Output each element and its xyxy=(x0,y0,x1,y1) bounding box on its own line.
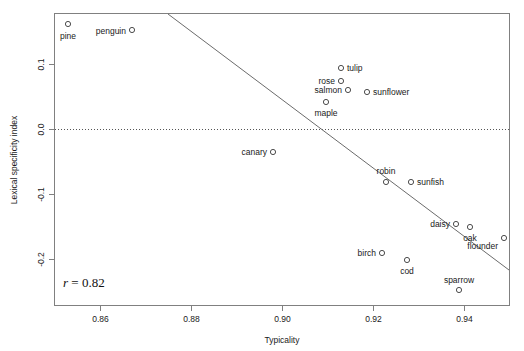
data-point-pine[interactable] xyxy=(65,21,70,26)
point-label-cod: cod xyxy=(400,266,414,276)
data-point-birch[interactable] xyxy=(379,250,384,255)
data-point-flounder[interactable] xyxy=(501,235,506,240)
x-tick-label-4: 0.94 xyxy=(456,314,473,324)
data-point-sparrow[interactable] xyxy=(456,287,461,292)
chart-canvas: 0.1 0.0 -0.1 -0.2 0.86 0.88 0.90 0.92 0.… xyxy=(0,0,524,351)
y-tick-label-1: 0.0 xyxy=(36,123,46,135)
svg-text:r = 0.82: r = 0.82 xyxy=(63,275,105,290)
point-label-sparrow: sparrow xyxy=(444,275,475,285)
data-point-penguin[interactable] xyxy=(129,27,134,32)
regression-fit-line xyxy=(168,14,509,270)
point-label-maple: maple xyxy=(314,108,337,118)
data-point-salmon[interactable] xyxy=(345,87,350,92)
point-label-canary: canary xyxy=(241,147,267,157)
data-point-daisy[interactable] xyxy=(453,221,458,226)
correlation-value: = 0.82 xyxy=(71,275,104,290)
x-tick-label-2: 0.90 xyxy=(274,314,291,324)
point-label-salmon: salmon xyxy=(315,85,343,95)
data-points-group xyxy=(65,21,506,292)
x-axis-ticks xyxy=(101,306,465,312)
point-label-sunfish: sunfish xyxy=(417,177,444,187)
point-label-pine: pine xyxy=(60,31,76,41)
point-label-robin: robin xyxy=(377,166,396,176)
point-label-daisy: daisy xyxy=(430,219,451,229)
point-labels-group: pine penguin tulip rose salmon sunflower… xyxy=(60,26,498,285)
point-label-tulip: tulip xyxy=(347,63,363,73)
scatter-plot-figure: 0.1 0.0 -0.1 -0.2 0.86 0.88 0.90 0.92 0.… xyxy=(0,0,524,351)
data-point-robin[interactable] xyxy=(383,179,388,184)
plot-frame xyxy=(55,14,510,306)
y-tick-label-3: -0.2 xyxy=(36,252,46,267)
data-point-tulip[interactable] xyxy=(338,65,343,70)
data-point-oak[interactable] xyxy=(467,224,472,229)
y-tick-label-0: 0.1 xyxy=(36,58,46,70)
x-tick-label-3: 0.92 xyxy=(365,314,382,324)
x-tick-label-1: 0.88 xyxy=(183,314,200,324)
point-label-penguin: penguin xyxy=(96,26,127,36)
data-point-sunfish[interactable] xyxy=(408,179,413,184)
data-point-rose[interactable] xyxy=(338,78,343,83)
point-label-flounder: flounder xyxy=(467,241,498,251)
data-point-cod[interactable] xyxy=(404,257,409,262)
y-axis-ticks xyxy=(49,65,55,260)
data-point-canary[interactable] xyxy=(270,149,275,154)
y-tick-label-2: -0.1 xyxy=(36,187,46,202)
correlation-annotation: r = 0.82 xyxy=(63,275,105,290)
data-point-maple[interactable] xyxy=(323,99,328,104)
point-label-sunflower: sunflower xyxy=(373,87,410,97)
point-label-birch: birch xyxy=(358,248,377,258)
x-tick-label-0: 0.86 xyxy=(92,314,109,324)
data-point-sunflower[interactable] xyxy=(364,89,369,94)
y-axis-title: Lexical specificity index xyxy=(9,115,19,204)
x-axis-title: Typicality xyxy=(265,335,301,345)
